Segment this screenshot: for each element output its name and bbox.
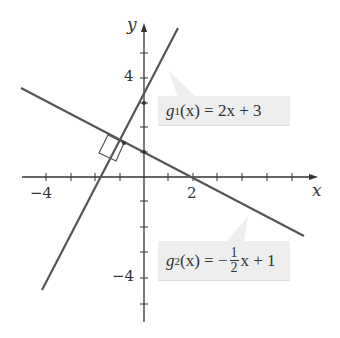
g2-y-intercept-point bbox=[142, 150, 146, 154]
g1-expression: (x) = 2x + 3 bbox=[180, 101, 262, 121]
g1-callout-label: g1(x) = 2x + 3 bbox=[158, 96, 290, 126]
g2-fraction: 12 bbox=[230, 246, 239, 275]
g2-callout-pointer bbox=[226, 216, 248, 242]
y-axis-arrow-icon bbox=[141, 23, 147, 32]
intersection-point bbox=[122, 141, 126, 145]
g1-callout-pointer bbox=[168, 70, 196, 97]
y-tick-label-4: 4 bbox=[124, 67, 134, 85]
y-axis-label: y bbox=[127, 14, 137, 34]
g1-y-intercept-point bbox=[142, 101, 146, 105]
x-axis-label: x bbox=[312, 180, 322, 200]
x-tick-label-2: 2 bbox=[187, 184, 197, 202]
g2-callout-label: g2(x) = − 12 x + 1 bbox=[158, 241, 290, 281]
g2-expression-end: x + 1 bbox=[241, 251, 276, 271]
g2-denominator: 2 bbox=[231, 261, 238, 275]
g2-expression-start: (x) = − bbox=[180, 251, 228, 271]
chart-canvas bbox=[0, 0, 340, 338]
y-tick-label-neg4: −4 bbox=[112, 267, 134, 285]
g2-numerator: 1 bbox=[230, 246, 239, 261]
x-tick-label-neg4: −4 bbox=[30, 184, 52, 202]
g1-fn-name: g bbox=[166, 101, 175, 121]
g2-fn-name: g bbox=[166, 251, 175, 271]
